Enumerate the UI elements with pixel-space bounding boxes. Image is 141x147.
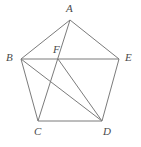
segment-A-E	[70, 20, 119, 59]
segment-D-E	[102, 59, 119, 121]
vertex-label-A: A	[66, 3, 73, 14]
vertex-label-B: B	[6, 52, 13, 63]
geometry-figure: A B C D E F	[0, 0, 141, 147]
segment-B-C	[21, 59, 38, 121]
segment-B-D	[21, 59, 102, 121]
pentagon-diagram-svg	[0, 0, 141, 147]
pentagon-diagonals	[21, 20, 119, 121]
vertex-label-D: D	[103, 126, 111, 137]
segment-A-B	[21, 20, 70, 59]
vertex-label-F: F	[53, 44, 60, 55]
segment-F-D	[58, 59, 102, 121]
vertex-label-E: E	[125, 52, 132, 63]
vertex-label-C: C	[34, 126, 41, 137]
segment-A-C	[38, 20, 70, 121]
